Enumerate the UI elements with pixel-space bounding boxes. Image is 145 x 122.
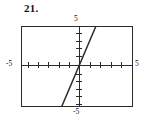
y-axis-max-label: 5 [74,15,78,23]
y-axis-min-label: -5 [73,108,79,116]
graph-figure: 21. 5 -5 -5 5 [0,0,145,122]
line-plot [21,26,133,107]
x-axis-min-label: -5 [6,60,12,68]
problem-number: 21. [24,2,38,14]
x-axis-max-label: 5 [135,60,139,68]
